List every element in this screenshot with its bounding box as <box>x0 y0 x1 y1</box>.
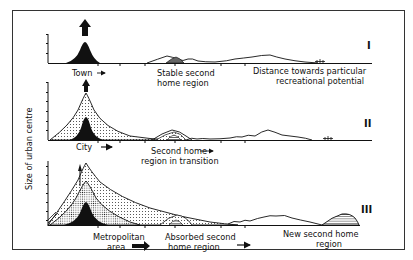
label-city: City <box>76 142 92 152</box>
diagram-canvas: Size of urban centre <box>0 0 413 260</box>
growth-arrow-icon <box>82 79 90 92</box>
town-peak <box>66 42 100 63</box>
panel-numeral-iii: III <box>361 204 372 215</box>
panel-i: I Town Stable second home region Distanc… <box>46 19 372 88</box>
stable-second-home-area <box>166 57 184 63</box>
panel-numeral-ii: II <box>364 118 371 129</box>
growth-arrow-icon <box>78 164 82 171</box>
panel-ii: II City Second home region in transition <box>46 79 372 166</box>
panel-iii: III Metropolitan area Absorbed second ho… <box>46 161 372 252</box>
growth-arrow-icon <box>79 19 91 36</box>
label-metropolitan-2: area <box>107 242 125 252</box>
panel-numeral-i: I <box>367 40 371 51</box>
new-second-home-area <box>322 214 359 225</box>
label-stable-second-home-1: Stable second <box>157 68 215 78</box>
label-new-second-home-1: New second home <box>283 229 358 239</box>
label-absorbed-1: Absorbed second <box>165 232 236 242</box>
label-metropolitan-1: Metropolitan <box>93 232 145 242</box>
y-axis-label: Size of urban centre <box>24 107 34 190</box>
label-transition-1: Second home <box>151 146 207 156</box>
label-stable-second-home-2: home region <box>157 78 209 88</box>
label-absorbed-2: home region <box>168 242 220 252</box>
label-new-second-home-2: region <box>316 239 342 249</box>
label-distance-2: recreational potential <box>276 76 364 86</box>
city-envelope <box>50 93 170 140</box>
label-transition-2: region in transition <box>141 156 219 166</box>
label-town: Town <box>71 68 93 78</box>
label-distance-1: Distance towards particular <box>253 66 367 76</box>
